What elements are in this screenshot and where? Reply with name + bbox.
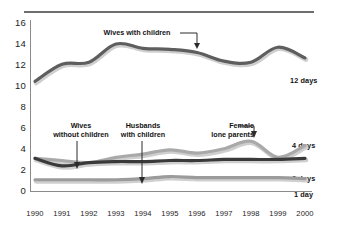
leader-female-lone-parents [238, 126, 257, 138]
chart-container: 16 14 12 10 8 6 4 2 0 1990 1991 1992 199… [0, 0, 337, 241]
series-line-wives-with-children [35, 43, 305, 81]
leader-wives-with-children [180, 33, 200, 49]
series-layer [35, 43, 306, 181]
plot-area [0, 0, 337, 241]
